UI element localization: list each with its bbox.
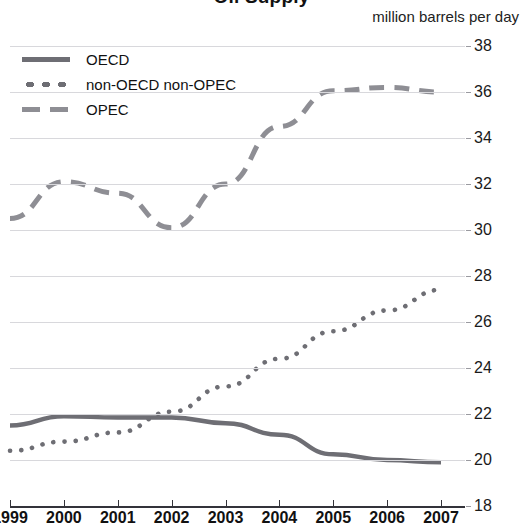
- y-tick-label: 22: [474, 405, 492, 423]
- x-tick-mark: [333, 500, 334, 507]
- x-tick-label: 2001: [100, 509, 136, 527]
- gridline: [10, 414, 465, 415]
- y-tick-label: 24: [474, 359, 492, 377]
- gridline: [10, 322, 465, 323]
- chart-legend: OECD non-OECD non-OPEC OPEC: [20, 48, 236, 123]
- x-tick-label: 2002: [154, 509, 190, 527]
- x-axis-line: [10, 506, 465, 508]
- x-tick-label: 2006: [369, 509, 405, 527]
- gridline: [10, 184, 465, 185]
- y-tick-mark: [466, 230, 471, 231]
- y-tick-label: 28: [474, 267, 492, 285]
- dashed-line-swatch: [20, 101, 72, 117]
- y-tick-mark: [466, 92, 471, 93]
- gridline: [10, 46, 465, 47]
- x-tick-mark: [441, 500, 442, 507]
- x-tick-mark: [118, 500, 119, 507]
- y-tick-mark: [466, 414, 471, 415]
- gridline: [10, 138, 465, 139]
- y-tick-label: 20: [474, 451, 492, 469]
- y-tick-mark: [466, 322, 471, 323]
- x-tick-mark: [387, 500, 388, 507]
- legend-item-label: non-OECD non-OPEC: [86, 76, 236, 93]
- gridline: [10, 460, 465, 461]
- y-tick-label: 36: [474, 83, 492, 101]
- gridline: [10, 368, 465, 369]
- x-tick-label: 2003: [208, 509, 244, 527]
- y-tick-mark: [466, 184, 471, 185]
- x-tick-label: 2004: [262, 509, 298, 527]
- x-tick-mark: [10, 500, 11, 507]
- x-tick-label: 2000: [46, 509, 82, 527]
- gridline: [10, 230, 465, 231]
- y-tick-label: 18: [474, 497, 492, 515]
- solid-line-swatch: [20, 51, 72, 67]
- legend-item-opec[interactable]: OPEC: [20, 98, 236, 120]
- y-tick-mark: [466, 506, 471, 507]
- x-tick-mark: [226, 500, 227, 507]
- legend-item-oecd[interactable]: OECD: [20, 48, 236, 70]
- dotted-line-swatch: [20, 76, 72, 92]
- x-tick-mark: [172, 500, 173, 507]
- gridline: [10, 276, 465, 277]
- legend-item-label: OECD: [86, 51, 129, 68]
- y-tick-label: 34: [474, 129, 492, 147]
- x-tick-mark: [279, 500, 280, 507]
- y-tick-label: 32: [474, 175, 492, 193]
- x-tick-label: 1999: [0, 509, 28, 527]
- series-line-non-oecd-non-opec: [10, 290, 441, 451]
- y-tick-mark: [466, 138, 471, 139]
- x-tick-mark: [64, 500, 65, 507]
- y-tick-mark: [466, 276, 471, 277]
- legend-item-non-oecd-non-opec[interactable]: non-OECD non-OPEC: [20, 73, 236, 95]
- y-tick-label: 26: [474, 313, 492, 331]
- legend-item-label: OPEC: [86, 101, 129, 118]
- x-tick-label: 2007: [423, 509, 459, 527]
- x-tick-label: 2005: [315, 509, 351, 527]
- y-tick-label: 30: [474, 221, 492, 239]
- y-tick-label: 38: [474, 37, 492, 55]
- y-tick-mark: [466, 368, 471, 369]
- y-tick-mark: [466, 460, 471, 461]
- y-tick-mark: [466, 46, 471, 47]
